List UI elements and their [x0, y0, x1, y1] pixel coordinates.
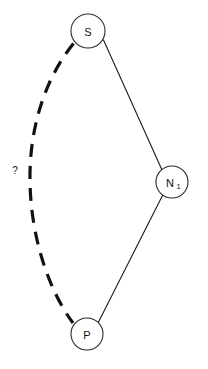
diagram-canvas: S N 1 P ? [0, 0, 208, 369]
node-n1-label: N [166, 177, 174, 189]
node-s-label: S [84, 26, 91, 38]
edge-n1-p[interactable] [98, 195, 163, 324]
node-p[interactable]: P [71, 318, 103, 350]
node-p-label: P [83, 329, 90, 341]
unknown-edge-question-label: ? [12, 165, 18, 176]
edge-s-n1[interactable] [104, 40, 163, 170]
node-s[interactable]: S [71, 14, 105, 48]
node-n1[interactable]: N 1 [156, 166, 188, 198]
diagram-svg: S N 1 P ? [0, 0, 208, 369]
edge-s-p-dashed[interactable] [30, 44, 74, 324]
node-n1-subscript: 1 [176, 182, 180, 191]
